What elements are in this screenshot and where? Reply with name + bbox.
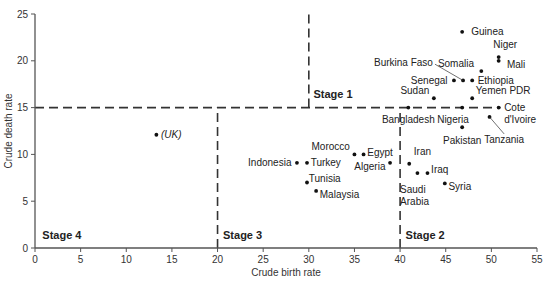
point-marker	[470, 96, 474, 100]
y-tick-label: 10	[17, 149, 29, 160]
x-tick-label: 10	[121, 254, 133, 265]
data-point: Sudan	[400, 85, 435, 100]
leader-line	[490, 117, 505, 134]
point-marker	[460, 30, 464, 34]
point-marker	[497, 59, 501, 63]
stage-label: Stage 4	[42, 229, 82, 241]
data-point: Pakistan	[443, 125, 481, 146]
point-label: Burkina Faso	[374, 57, 433, 68]
data-point: Coted'Ivoire	[497, 102, 537, 125]
x-tick-label: 15	[166, 254, 178, 265]
point-label: Sudan	[400, 85, 429, 96]
x-tick-label: 0	[32, 254, 38, 265]
point-label: Syria	[448, 181, 471, 192]
point-marker	[416, 171, 420, 175]
data-point: Mali	[497, 59, 525, 70]
data-point: Iran	[407, 146, 431, 166]
point-marker	[314, 189, 318, 193]
point-label: Pakistan	[443, 135, 481, 146]
data-point: SaudiArabia	[400, 171, 429, 207]
stage-label: Stage 3	[223, 229, 262, 241]
point-label: Somalia	[438, 58, 475, 69]
y-tick-label: 20	[17, 55, 29, 66]
stage-label: Stage 1	[313, 88, 352, 100]
data-point: Iraq	[426, 164, 449, 175]
point-marker	[407, 162, 411, 166]
point-marker	[452, 79, 456, 83]
data-point: Nigeria	[437, 106, 469, 126]
point-marker	[353, 153, 357, 157]
point-label: (UK)	[161, 129, 182, 140]
data-point: Niger	[493, 39, 518, 59]
point-label: Nigeria	[437, 114, 469, 125]
point-label: Algeria	[354, 161, 386, 172]
data-point: Indonesia	[248, 157, 299, 168]
data-point: Algeria	[354, 161, 392, 172]
point-label: Tunisia	[309, 173, 341, 184]
point-marker	[406, 106, 410, 110]
x-tick-label: 30	[303, 254, 315, 265]
x-tick-label: 20	[212, 254, 224, 265]
data-point: Malaysia	[314, 189, 359, 200]
point-marker	[305, 161, 309, 165]
point-marker	[470, 79, 474, 83]
point-marker	[426, 171, 430, 175]
point-marker	[362, 153, 366, 157]
y-tick-label: 15	[17, 102, 29, 113]
data-point: Tunisia	[305, 173, 341, 184]
point-label: Yemen PDR	[476, 85, 531, 96]
point-label: SaudiArabia	[400, 184, 429, 207]
data-point: Yemen PDR	[470, 85, 530, 100]
data-point: Guinea	[460, 26, 504, 37]
data-point: Turkey	[305, 157, 341, 168]
data-point: Bangladesh	[382, 106, 435, 126]
data-point: (UK)	[154, 129, 181, 140]
point-label: Bangladesh	[382, 114, 435, 125]
data-point: Morocco	[312, 141, 357, 156]
y-tick-label: 25	[17, 9, 29, 20]
point-label: Mali	[507, 59, 525, 70]
point-marker	[443, 182, 447, 186]
point-marker	[432, 96, 436, 100]
point-marker	[154, 133, 158, 137]
point-label: Malaysia	[320, 189, 360, 200]
x-tick-label: 40	[395, 254, 407, 265]
point-label: Morocco	[312, 141, 351, 152]
data-points: GuineaNigerMaliSomaliaBurkina FasoSenega…	[154, 26, 536, 207]
y-axis-title: Crude death rate	[3, 93, 14, 168]
data-point: Somalia	[438, 58, 483, 73]
point-marker	[460, 106, 464, 110]
data-point: Syria	[443, 181, 472, 192]
point-label: Coted'Ivoire	[504, 102, 536, 125]
point-label: Egypt	[367, 147, 393, 158]
point-label: Indonesia	[248, 157, 292, 168]
point-marker	[497, 106, 501, 110]
point-label: Iraq	[431, 164, 448, 175]
x-tick-label: 25	[258, 254, 270, 265]
point-label: Tanzania	[484, 134, 524, 145]
x-tick-label: 50	[486, 254, 498, 265]
point-label: Iran	[414, 146, 431, 157]
y-tick-label: 5	[22, 196, 28, 207]
point-label: Turkey	[311, 157, 341, 168]
point-marker	[479, 69, 483, 73]
y-tick-label: 0	[22, 243, 28, 254]
point-marker	[497, 55, 501, 59]
x-tick-label: 5	[78, 254, 84, 265]
point-marker	[388, 161, 392, 165]
point-marker	[295, 161, 299, 165]
stage-label: Stage 2	[406, 229, 445, 241]
point-marker	[460, 125, 464, 129]
point-label: Niger	[493, 39, 518, 50]
stage-boundary-lines	[35, 14, 500, 248]
point-label: Guinea	[471, 26, 504, 37]
x-axis-title: Crude birth rate	[251, 267, 321, 278]
x-tick-label: 45	[440, 254, 452, 265]
demographic-transition-scatter-chart: 05101520253035404550550510152025 GuineaN…	[0, 0, 547, 291]
x-tick-label: 35	[349, 254, 361, 265]
data-point: Egypt	[362, 147, 393, 158]
x-tick-label: 55	[531, 254, 543, 265]
